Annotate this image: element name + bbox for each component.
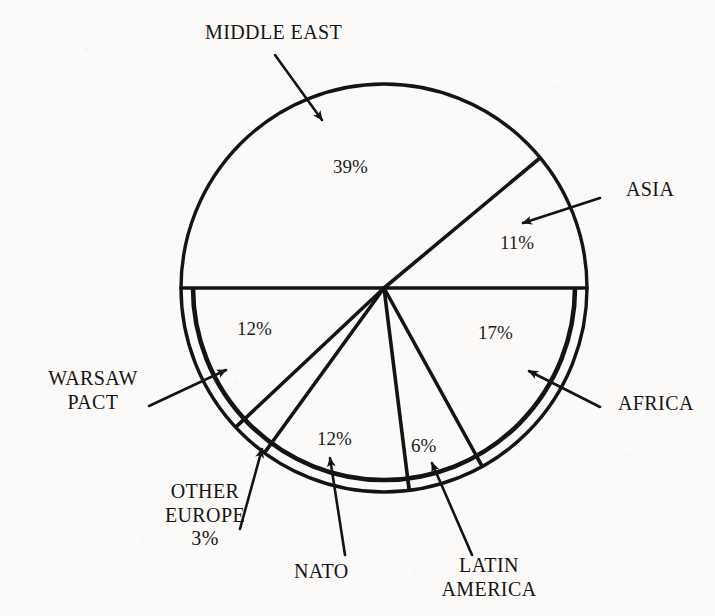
label-latin-america-line1: LATIN xyxy=(434,554,544,578)
label-other-europe-line1: OTHER xyxy=(146,480,264,504)
rim-emphasis-band xyxy=(193,288,575,480)
percent-asia: 11% xyxy=(500,232,534,254)
pie-chart-graphic xyxy=(0,0,715,616)
slice-boundary-othereurope-warsawpact xyxy=(236,288,384,427)
label-latin-america-line2: AMERICA xyxy=(434,578,544,602)
pie-outline xyxy=(181,84,587,492)
label-africa: AFRICA xyxy=(618,392,694,416)
slice-boundary-latinamerica-nato xyxy=(384,288,409,489)
label-nato: NATO xyxy=(294,560,349,584)
label-middle-east: MIDDLE EAST xyxy=(205,21,342,45)
label-warsaw-pact-line2: PACT xyxy=(33,391,153,415)
label-other-europe-percent: 3% xyxy=(146,527,264,551)
label-asia: ASIA xyxy=(626,178,674,202)
percent-latin-america: 6% xyxy=(411,435,436,457)
label-other-europe: OTHER EUROPE 3% xyxy=(146,480,264,551)
pie-chart-page: MIDDLE EAST ASIA AFRICA LATIN AMERICA NA… xyxy=(0,0,715,616)
rim-tick-latinamerica-nato xyxy=(408,479,409,489)
label-latin-america: LATIN AMERICA xyxy=(434,554,544,601)
rim-arc-inner xyxy=(193,288,575,480)
percent-middle-east: 39% xyxy=(333,156,368,178)
label-other-europe-line2: EUROPE xyxy=(146,504,264,528)
label-warsaw-pact-line1: WARSAW xyxy=(33,367,153,391)
arrow-asia xyxy=(523,198,600,223)
percent-nato: 12% xyxy=(317,428,352,450)
percent-warsaw-pact: 12% xyxy=(237,318,272,340)
label-warsaw-pact: WARSAW PACT xyxy=(33,367,153,414)
arrow-latin-america xyxy=(432,463,472,555)
percent-africa: 17% xyxy=(478,322,513,344)
slice-boundary-middleeast-asia xyxy=(384,158,540,288)
